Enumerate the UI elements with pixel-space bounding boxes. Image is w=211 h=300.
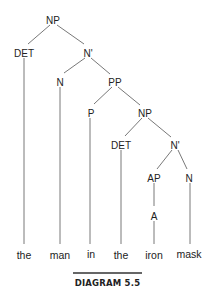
tree-node-det-1: DET: [14, 48, 34, 59]
tree-edge-nbar_1-n_1: [64, 58, 85, 73]
tree-node-np-2: NP: [138, 108, 152, 119]
tree-edge-np_2-det_2: [125, 118, 142, 136]
tree-node-nbar-2: N': [170, 140, 179, 151]
tree-edge-np_root-nbar_1: [57, 25, 84, 44]
terminal-words: themanintheironmask: [17, 248, 203, 261]
tree-edge-pp-p: [94, 87, 112, 104]
terminal-word-mask: mask: [176, 248, 202, 260]
tree-node-p: P: [88, 108, 95, 119]
tree-node-a: A: [151, 211, 158, 222]
diagram-caption: DIAGRAM 5.5: [75, 278, 141, 288]
tree-node-nbar-1: N': [83, 48, 92, 59]
tree-edge-np_2-nbar_2: [148, 118, 171, 137]
terminal-word-man: man: [50, 249, 71, 261]
tree-node-np-root: NP: [46, 15, 60, 26]
tree-node-ap: AP: [147, 173, 161, 184]
terminal-word-the: the: [17, 249, 32, 261]
tree-node-pp: PP: [108, 77, 122, 88]
tree-edge-np_root-det_1: [28, 25, 50, 44]
tree-edges: [24, 25, 190, 244]
tree-node-n-1: N: [56, 77, 63, 88]
tree-edge-nbar_1-pp: [91, 58, 110, 74]
tree-node-det-2: DET: [111, 140, 131, 151]
tree-edge-nbar_2-n_2: [178, 150, 187, 169]
tree-edge-pp-np_2: [118, 87, 140, 105]
tree-node-n-2: N: [185, 173, 192, 184]
terminal-word-the: the: [114, 249, 129, 261]
tree-nodes: NPDETN'NPPPNPDETN'APNA: [14, 15, 193, 222]
terminal-word-in: in: [87, 248, 95, 260]
syntax-tree-diagram: NPDETN'NPPPNPDETN'APNA themanintheironma…: [0, 0, 211, 300]
tree-edge-nbar_2-ap: [157, 150, 172, 169]
terminal-word-iron: iron: [145, 249, 163, 261]
